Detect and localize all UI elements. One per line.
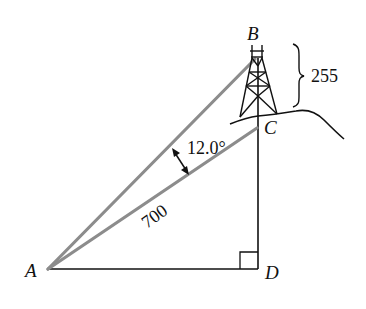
right-angle-marker xyxy=(240,252,258,269)
angle-value: 12.0° xyxy=(187,138,226,158)
height-brace xyxy=(293,44,304,107)
label-D: D xyxy=(264,262,279,283)
sight-line-AB xyxy=(48,59,255,269)
label-B: B xyxy=(247,23,259,44)
label-A: A xyxy=(23,260,37,281)
diagram-canvas: B C A D 255 12.0° 700 xyxy=(0,0,366,309)
label-C: C xyxy=(264,117,277,138)
tower-height-value: 255 xyxy=(311,66,338,86)
